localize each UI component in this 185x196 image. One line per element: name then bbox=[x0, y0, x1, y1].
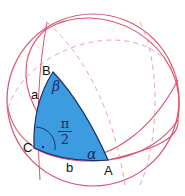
vertex-label-a: A bbox=[104, 164, 113, 177]
great-circle-right-back bbox=[140, 22, 155, 185]
fraction-denominator: 2 bbox=[61, 132, 69, 147]
spherical-triangle-diagram: B a C b A β α π 2 bbox=[0, 0, 185, 196]
side-label-b: b bbox=[66, 161, 73, 174]
angle-label-beta: β bbox=[52, 79, 60, 93]
right-angle-fraction: π 2 bbox=[58, 117, 72, 146]
vertex-label-c: C bbox=[23, 141, 32, 154]
vertex-label-b: B bbox=[42, 64, 51, 77]
sphere-graphic bbox=[0, 0, 185, 196]
side-label-a: a bbox=[31, 88, 38, 101]
fraction-numerator: π bbox=[61, 116, 70, 131]
angle-label-alpha: α bbox=[87, 147, 96, 161]
right-angle-dot bbox=[42, 146, 44, 148]
